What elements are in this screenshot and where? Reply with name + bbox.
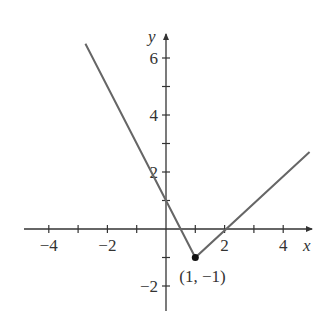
y-tick-label: 4 (150, 106, 159, 125)
x-tick-label: −2 (98, 236, 116, 255)
points: (1, −1) (179, 254, 225, 286)
x-tick-label: −4 (40, 236, 59, 255)
series (85, 44, 309, 258)
x-tick-label: 2 (220, 236, 229, 255)
vertex-label: (1, −1) (179, 267, 225, 286)
y-tick-label: 6 (150, 49, 159, 68)
x-axis-label: x (302, 236, 311, 255)
x-tick-label: 4 (279, 236, 288, 255)
y-tick-label: −2 (140, 277, 158, 296)
vertex-point (192, 254, 199, 261)
chart: −4−224−2246 (1, −1) x y (0, 0, 333, 322)
function-line (85, 44, 309, 258)
y-axis-label: y (146, 27, 156, 46)
